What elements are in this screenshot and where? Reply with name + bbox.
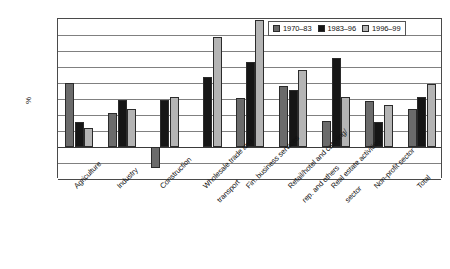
x-axis-label: transport <box>215 178 242 205</box>
bar-chart: % 876543210-1-2 1970–831983–961996–99 Ag… <box>0 0 450 269</box>
x-axis-label: Industry <box>115 166 140 191</box>
x-axis-labels: AgricultureIndustryConstructionWholesale… <box>0 0 450 269</box>
x-axis-label: Construction <box>158 155 193 190</box>
x-axis-label: Total <box>415 173 432 190</box>
x-axis-label: sector <box>343 184 363 204</box>
x-axis-label: Agriculture <box>72 159 103 190</box>
x-axis-label: Non-profit sector <box>372 146 416 190</box>
